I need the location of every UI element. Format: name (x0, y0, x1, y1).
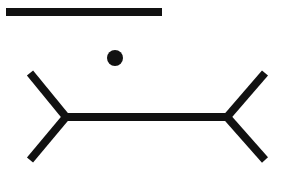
left-fin-upper (30, 73, 66, 117)
right-fin-lower (227, 117, 265, 160)
right-fin-upper (227, 73, 265, 117)
muller-lyer-figure (0, 0, 284, 175)
fixation-dot (107, 50, 123, 66)
left-fin-lower (30, 117, 66, 160)
